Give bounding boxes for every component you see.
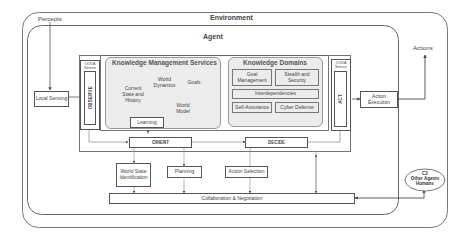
domain-goal-management: Goal Management [232,69,272,86]
domain-label: Interdependencies [255,91,296,97]
orient-label: ORIENT [152,140,169,145]
domain-interdependencies: Interdependencies [232,89,319,99]
external-humans: Humans [405,181,445,186]
decide-box: DECIDE [245,137,308,148]
environment-label: Environment [210,14,253,21]
knowledge-domains-title: Knowledge Domains [243,59,307,66]
store-current-state: Current State and History [120,86,146,103]
store-goals: Goals [186,80,202,86]
action-execution-box: Action Execution [360,91,398,108]
ooda-service-label: OODA Service [332,61,350,69]
knowledge-management-title: Knowledge Management Services [112,59,217,66]
action-selection-label: Action Selection [229,169,265,175]
planning-label: Planning [175,169,194,175]
domain-label: Stealth and Security [276,72,318,84]
local-sensing-box: Local Sensing [34,91,69,107]
action-execution-label: Action Execution [361,94,397,106]
orient-box: ORIENT [129,137,192,148]
ooda-service-label: OODA Service [81,62,99,70]
domain-stealth-security: Stealth and Security [275,69,319,86]
observe-label: OBSERVE [88,86,93,109]
percepts-label: Percepts [38,16,62,22]
observe-box: OBSERVE [84,71,96,125]
external-entities-label: C2 Other Agents Humans [405,171,445,187]
actions-label: Actions [413,45,433,51]
collaboration-negotiation-box: Collaboration & Negotiation [109,193,355,204]
domain-self-assurance: Self-Assurance [232,102,272,113]
domain-label: Goal Management [233,72,271,84]
local-sensing-label: Local Sensing [36,96,67,102]
planning-box: Planning [167,166,202,178]
action-selection-box: Action Selection [225,166,268,178]
collaboration-label: Collaboration & Negotiation [202,196,263,202]
act-box: ACT [334,71,347,127]
agent-label: Agent [203,33,223,40]
learning-box: Learning [130,117,164,128]
learning-label: Learning [137,120,156,126]
store-world-model: World Model [170,103,196,115]
store-world-dynamics: World Dynamics [151,77,178,89]
decide-label: DECIDE [268,140,285,145]
act-label: ACT [338,94,343,104]
world-state-identification-box: World State Identification [116,163,151,187]
domain-cyber-defense: Cyber Defense [275,102,319,113]
domain-label: Cyber Defense [280,105,313,111]
world-state-label: World State Identification [117,169,150,181]
domain-label: Self-Assurance [235,105,269,111]
